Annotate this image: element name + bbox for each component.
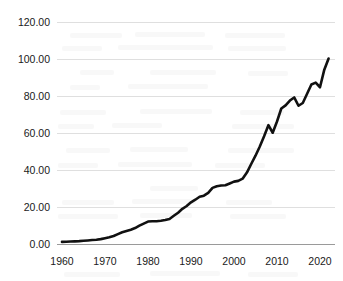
y-tick-label-120: 120.00 — [18, 16, 50, 28]
x-tick-label-1960: 1960 — [50, 255, 74, 267]
y-tick-label-60: 60.00 — [24, 127, 50, 139]
y-tick-label-100: 100.00 — [18, 53, 50, 65]
x-tick-label-2000: 2000 — [222, 255, 246, 267]
x-axis-tick-labels: 1960 1970 1980 1990 2000 2010 2020 — [50, 255, 332, 267]
x-tick-label-1970: 1970 — [93, 255, 117, 267]
x-tick-label-1980: 1980 — [136, 255, 160, 267]
x-tick-label-1990: 1990 — [179, 255, 203, 267]
y-tick-label-40: 40.00 — [24, 164, 50, 176]
y-axis-tick-labels: 120.00 100.00 80.00 60.00 40.00 20.00 0.… — [18, 16, 50, 250]
x-tick-label-2010: 2010 — [265, 255, 289, 267]
y-tick-label-20: 20.00 — [24, 201, 50, 213]
y-tick-label-0: 0.00 — [30, 238, 51, 250]
gridlines — [57, 23, 335, 208]
x-tick-label-2020: 2020 — [308, 255, 332, 267]
y-tick-label-80: 80.00 — [24, 90, 50, 102]
line-chart: 120.00 100.00 80.00 60.00 40.00 20.00 0.… — [0, 0, 343, 281]
chart-container: 120.00 100.00 80.00 60.00 40.00 20.00 0.… — [0, 0, 343, 281]
data-series-line — [62, 59, 329, 242]
